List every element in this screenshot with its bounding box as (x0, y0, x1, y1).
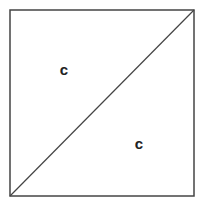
label-lower-right: c (135, 135, 143, 152)
diagonal-line (10, 10, 194, 196)
diagram-canvas: c c (0, 0, 200, 201)
label-upper-left: c (60, 61, 68, 78)
